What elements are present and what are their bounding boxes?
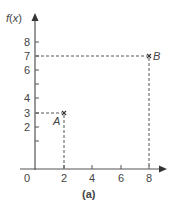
point-a-marker	[62, 111, 66, 115]
y-tick-label-7: 7	[24, 50, 30, 62]
origin-label: 0	[24, 172, 30, 184]
figure-caption: (a)	[82, 188, 96, 200]
x-axis-arrow-icon	[159, 166, 167, 173]
y-axis-label: f(x)	[6, 12, 22, 24]
point-b-marker	[147, 54, 151, 58]
point-b-label: B	[153, 50, 160, 62]
y-tick-label-4: 4	[24, 92, 30, 104]
x-tick-label-2: 2	[61, 172, 67, 184]
x-tick-label-8: 8	[146, 172, 152, 184]
y-tick-label-2: 2	[24, 121, 30, 133]
y-tick-label-3: 3	[24, 107, 30, 119]
y-axis-arrow-icon	[32, 13, 39, 21]
x-tick-label-4: 4	[89, 172, 95, 184]
function-plot: f(x) 8 7 6 4 3 2 0 2 4 6 8 B A (a)	[0, 0, 176, 203]
y-tick-label-6: 6	[24, 64, 30, 76]
guide-lines	[36, 56, 149, 168]
y-tick-label-8: 8	[24, 36, 30, 48]
point-a-label: A	[52, 115, 60, 127]
x-tick-label-6: 6	[118, 172, 124, 184]
